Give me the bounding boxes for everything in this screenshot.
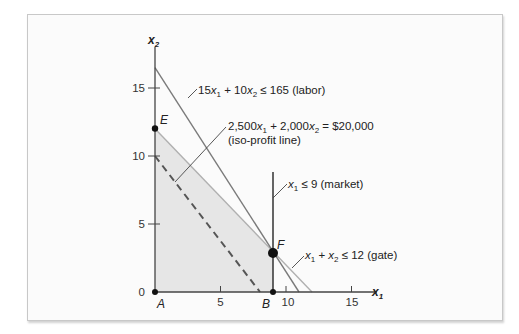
feasible-region — [155, 129, 273, 292]
y-tick-label-0: 0 — [139, 286, 145, 298]
market-constraint-label: x1 ≤ 9 (market) — [287, 178, 363, 193]
y-tick-label-15: 15 — [132, 82, 145, 94]
linear-programming-chart: 0 5 10 15 5 10 15 x2 x1 A E B F 15x1 + 1… — [0, 0, 519, 334]
gate-constraint-label: x1 + x2 ≤ 12 (gate) — [304, 249, 397, 264]
y-axis-label: x2 — [147, 33, 160, 49]
labor-leader-line — [188, 89, 197, 98]
iso-profit-label-subtitle: (iso-profit line) — [228, 134, 301, 146]
market-leader-line — [273, 184, 287, 198]
y-tick-label-5: 5 — [139, 218, 145, 230]
labor-constraint-label: 15x1 + 10x2 ≤ 165 (labor) — [198, 84, 326, 99]
point-label-f: F — [277, 238, 285, 252]
point-a — [152, 289, 158, 295]
x-tick-label-15: 15 — [346, 296, 359, 308]
iso-profit-label: 2,500x1 + 2,000x2 = $20,000 — [228, 120, 374, 135]
x-axis-label: x1 — [371, 285, 384, 301]
point-label-a: A — [156, 297, 165, 311]
y-tick-label-10: 10 — [132, 150, 145, 162]
point-label-e: E — [160, 113, 169, 127]
point-label-b: B — [262, 297, 270, 311]
point-e — [152, 125, 158, 131]
point-b — [270, 289, 276, 295]
x-tick-label-5: 5 — [217, 296, 223, 308]
gate-leader-line — [292, 256, 304, 268]
iso-profit-leader-line — [175, 127, 226, 182]
x-tick-label-10: 10 — [282, 296, 295, 308]
